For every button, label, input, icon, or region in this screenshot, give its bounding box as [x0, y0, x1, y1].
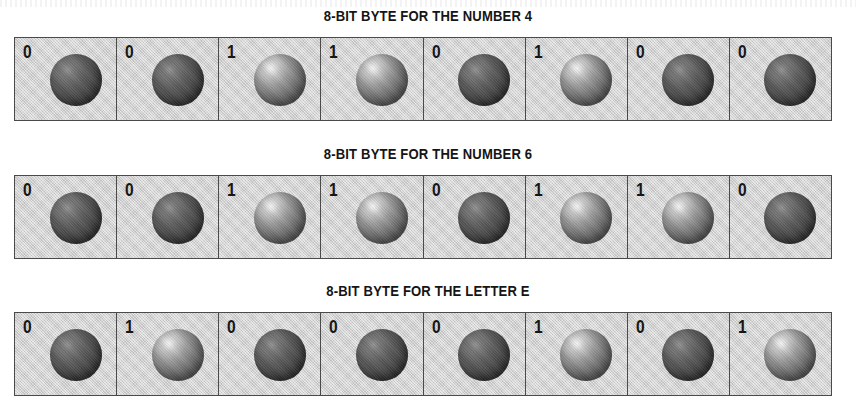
- bit-cell[interactable]: 0: [424, 313, 526, 395]
- bit-sphere-icon: [50, 192, 102, 244]
- bit-digit-label: 1: [534, 180, 543, 199]
- bit-digit-label: 0: [125, 180, 134, 199]
- eight-bit-byte-figure: 8-BIT BYTE FOR THE NUMBER 4 0 0 1 1 0: [0, 0, 856, 408]
- bit-cell[interactable]: 0: [628, 38, 730, 120]
- byte-title: 8-BIT BYTE FOR THE NUMBER 6: [43, 144, 813, 164]
- bit-sphere-icon: [254, 329, 306, 381]
- bit-sphere-icon: [458, 329, 510, 381]
- byte-strip: 0 1 0 0 0 1 0: [14, 312, 832, 396]
- bit-cell[interactable]: 1: [628, 176, 730, 258]
- bit-digit-label: 1: [227, 42, 236, 61]
- bit-sphere-icon: [662, 192, 714, 244]
- bit-sphere-icon: [662, 54, 714, 106]
- bit-digit-label: 0: [432, 317, 441, 336]
- bit-sphere-icon: [662, 329, 714, 381]
- bit-sphere-icon: [560, 192, 612, 244]
- bit-cell[interactable]: 0: [15, 176, 117, 258]
- bit-cell[interactable]: 0: [730, 38, 831, 120]
- bit-digit-label: 0: [636, 42, 645, 61]
- bit-cell[interactable]: 1: [219, 38, 321, 120]
- bit-cell[interactable]: 1: [117, 313, 219, 395]
- bit-sphere-icon: [356, 329, 408, 381]
- bit-cell[interactable]: 0: [628, 313, 730, 395]
- byte-block-letter-e: 8-BIT BYTE FOR THE LETTER E 0 1 0 0 0: [0, 281, 856, 301]
- bit-cell[interactable]: 0: [117, 176, 219, 258]
- byte-title: 8-BIT BYTE FOR THE LETTER E: [43, 281, 813, 301]
- bit-cell[interactable]: 1: [526, 38, 628, 120]
- bit-sphere-icon: [764, 192, 816, 244]
- bit-digit-label: 0: [738, 42, 747, 61]
- bit-sphere-icon: [356, 54, 408, 106]
- bit-cell[interactable]: 0: [15, 38, 117, 120]
- bit-sphere-icon: [560, 54, 612, 106]
- bit-digit-label: 1: [227, 180, 236, 199]
- bit-cell[interactable]: 0: [321, 313, 423, 395]
- byte-block-number-4: 8-BIT BYTE FOR THE NUMBER 4 0 0 1 1 0: [0, 6, 856, 26]
- byte-title: 8-BIT BYTE FOR THE NUMBER 4: [43, 6, 813, 26]
- bit-cell[interactable]: 0: [730, 176, 831, 258]
- bit-digit-label: 0: [738, 180, 747, 199]
- bit-digit-label: 1: [125, 317, 134, 336]
- bit-sphere-icon: [254, 192, 306, 244]
- bit-cell[interactable]: 0: [424, 176, 526, 258]
- bit-sphere-icon: [356, 192, 408, 244]
- bit-sphere-icon: [458, 192, 510, 244]
- bit-digit-label: 0: [23, 317, 32, 336]
- bit-digit-label: 1: [329, 180, 338, 199]
- bit-sphere-icon: [50, 329, 102, 381]
- bit-sphere-icon: [50, 54, 102, 106]
- bit-sphere-icon: [152, 54, 204, 106]
- bit-cell[interactable]: 1: [321, 176, 423, 258]
- bit-sphere-icon: [254, 54, 306, 106]
- byte-strip: 0 0 1 1 0 1 0: [14, 37, 832, 121]
- bit-cell[interactable]: 1: [219, 176, 321, 258]
- bit-sphere-icon: [560, 329, 612, 381]
- bit-cell[interactable]: 1: [730, 313, 831, 395]
- bit-digit-label: 0: [23, 42, 32, 61]
- bit-digit-label: 1: [636, 180, 645, 199]
- bit-sphere-icon: [458, 54, 510, 106]
- bit-sphere-icon: [764, 54, 816, 106]
- bit-digit-label: 0: [125, 42, 134, 61]
- bit-digit-label: 0: [432, 42, 441, 61]
- bit-sphere-icon: [152, 192, 204, 244]
- bit-sphere-icon: [764, 329, 816, 381]
- bit-digit-label: 0: [23, 180, 32, 199]
- bit-cell[interactable]: 0: [424, 38, 526, 120]
- byte-block-number-6: 8-BIT BYTE FOR THE NUMBER 6 0 0 1 1 0: [0, 144, 856, 164]
- bit-cell[interactable]: 1: [526, 176, 628, 258]
- bit-digit-label: 0: [432, 180, 441, 199]
- bit-digit-label: 1: [738, 317, 747, 336]
- bit-digit-label: 1: [534, 42, 543, 61]
- bit-cell[interactable]: 0: [117, 38, 219, 120]
- bit-cell[interactable]: 1: [526, 313, 628, 395]
- bit-digit-label: 0: [227, 317, 236, 336]
- bit-digit-label: 0: [329, 317, 338, 336]
- bit-cell[interactable]: 0: [219, 313, 321, 395]
- bit-cell[interactable]: 0: [15, 313, 117, 395]
- bit-digit-label: 0: [636, 317, 645, 336]
- bit-cell[interactable]: 1: [321, 38, 423, 120]
- bit-digit-label: 1: [329, 42, 338, 61]
- bit-sphere-icon: [152, 329, 204, 381]
- byte-strip: 0 0 1 1 0 1 1: [14, 175, 832, 259]
- bit-digit-label: 1: [534, 317, 543, 336]
